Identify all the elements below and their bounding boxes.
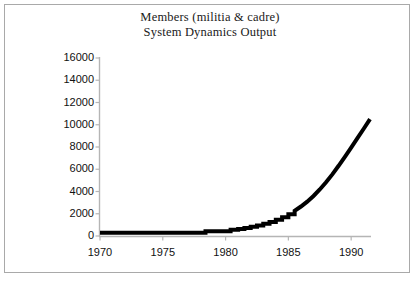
x-tick-label: 1980	[204, 246, 248, 258]
chart-figure: Members (militia & cadre) System Dynamic…	[0, 0, 420, 283]
x-tick-label: 1970	[78, 246, 122, 258]
x-axis-labels: 19701975198019851990	[0, 0, 420, 283]
x-tick-label: 1990	[329, 246, 373, 258]
x-tick-label: 1985	[266, 246, 310, 258]
x-tick-label: 1975	[141, 246, 185, 258]
